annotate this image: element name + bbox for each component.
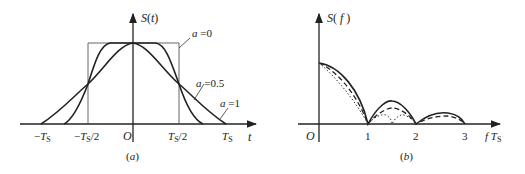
leader-a0 xyxy=(179,38,190,48)
origin-a: O xyxy=(123,129,132,143)
curve-dashed xyxy=(319,63,465,124)
curve-solid xyxy=(319,63,465,124)
tick-3: 3 xyxy=(462,130,468,142)
tick-neg-ts: −TS xyxy=(34,130,51,144)
y-label-b: S( f ) xyxy=(327,11,350,25)
tick-ts2: TS/2 xyxy=(168,130,187,144)
label-a05: a =0.5 xyxy=(196,77,225,89)
caption-b: (b) xyxy=(400,150,413,163)
leader-a1 xyxy=(220,108,228,119)
origin-b: O xyxy=(306,129,315,143)
caption-a: (a) xyxy=(126,150,139,163)
tick-2: 2 xyxy=(413,130,419,142)
tick-neg-ts2: −TS/2 xyxy=(74,130,99,144)
y-label-a: S(t) xyxy=(141,11,158,25)
panel-a: a =0 a =0.5 a =1 S(t) t O −TS −TS/2 TS/2… xyxy=(20,11,256,163)
x-label-b: f TS xyxy=(485,130,501,144)
figure: a =0 a =0.5 a =1 S(t) t O −TS −TS/2 TS/2… xyxy=(0,0,525,174)
label-a1: a =1 xyxy=(220,97,240,109)
panel-b: S( f ) O 1 2 3 f TS (b) xyxy=(298,11,501,163)
label-a0: a =0 xyxy=(192,27,212,39)
tick-ts: TS xyxy=(222,130,233,144)
x-label-a: t xyxy=(248,130,252,144)
tick-1: 1 xyxy=(365,130,371,142)
